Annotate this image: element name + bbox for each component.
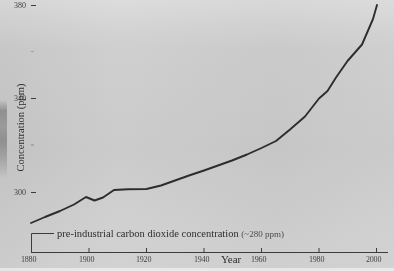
co2-curve-line bbox=[31, 5, 377, 223]
y-axis-ticks bbox=[31, 6, 36, 193]
x-tick-label-1960: 1960 bbox=[251, 255, 266, 264]
x-axis-title: Year bbox=[221, 253, 241, 265]
y-tick-label-300: 300 bbox=[14, 188, 26, 197]
x-tick-label-1980: 1980 bbox=[309, 255, 324, 264]
co2-concentration-chart-figure: 380 340 300 Concentration (ppm) 1880 190… bbox=[0, 0, 394, 271]
x-tick-label-1940: 1940 bbox=[194, 255, 209, 264]
annotation-main-text: pre-industrial carbon dioxide concentrat… bbox=[57, 228, 241, 239]
preindustrial-annotation: pre-industrial carbon dioxide concentrat… bbox=[57, 228, 284, 239]
x-tick-label-1900: 1900 bbox=[79, 255, 94, 264]
annotation-leader-bracket bbox=[32, 234, 55, 253]
annotation-value-note: (~280 ppm) bbox=[241, 229, 284, 239]
y-axis-title: Concentration (ppm) bbox=[15, 78, 26, 178]
y-tick-label-380: 380 bbox=[14, 1, 26, 10]
x-tick-label-1920: 1920 bbox=[136, 255, 151, 264]
x-axis-ticks bbox=[32, 248, 377, 253]
x-tick-label-2000: 2000 bbox=[366, 255, 381, 264]
x-tick-label-1880: 1880 bbox=[21, 255, 36, 264]
